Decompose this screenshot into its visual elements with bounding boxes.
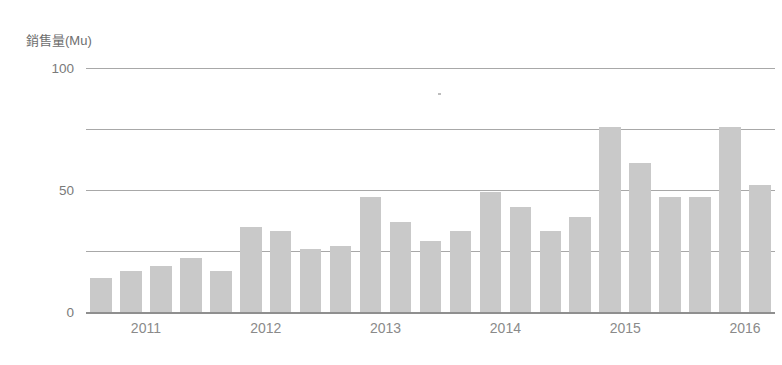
image-artifact-speck (438, 93, 441, 95)
bar (390, 222, 412, 312)
x-tick-label-2014: 2014 (490, 320, 521, 336)
x-tick-label-2016: 2016 (729, 320, 760, 336)
x-tick-label-2012: 2012 (250, 320, 281, 336)
gridline-75 (86, 129, 775, 130)
bar (180, 258, 202, 312)
y-tick-label-100: 100 (34, 61, 74, 76)
bar (210, 271, 232, 312)
x-axis-line (86, 312, 775, 314)
bar (420, 241, 442, 312)
bar (659, 197, 681, 312)
y-tick-label-0: 0 (34, 305, 74, 320)
plot-area (86, 68, 775, 312)
bar (719, 127, 741, 312)
bar (480, 192, 502, 312)
y-tick-label-50: 50 (34, 183, 74, 198)
bar (569, 217, 591, 312)
bar (300, 249, 322, 312)
sales-volume-bar-chart: 銷售量(Mu) 100500 201120122013201420152016 (0, 0, 782, 365)
bar (689, 197, 711, 312)
bar (540, 231, 562, 312)
bar (599, 127, 621, 312)
bar (450, 231, 472, 312)
gridline-50 (86, 190, 775, 191)
gridline-100 (86, 68, 775, 69)
bar (270, 231, 292, 312)
bar (629, 163, 651, 312)
bar (749, 185, 771, 312)
x-tick-label-2015: 2015 (610, 320, 641, 336)
x-tick-label-2011: 2011 (131, 320, 161, 336)
bar (90, 278, 112, 312)
y-axis-tick-labels: 100500 (30, 68, 74, 312)
bar (330, 246, 352, 312)
bar (120, 271, 142, 312)
x-axis-tick-labels: 201120122013201420152016 (86, 316, 775, 342)
bar (150, 266, 172, 312)
bar (510, 207, 532, 312)
y-axis-title: 銷售量(Mu) (26, 30, 92, 49)
bar (240, 227, 262, 312)
bar (360, 197, 382, 312)
x-tick-label-2013: 2013 (370, 320, 401, 336)
